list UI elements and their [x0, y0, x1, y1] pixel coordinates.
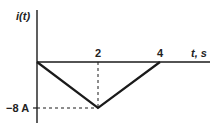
x-axis-label: t, s	[191, 48, 207, 59]
x-tick-label-2: 2	[95, 48, 101, 59]
y-axis-label: i(t)	[16, 11, 30, 22]
waveform-plot	[0, 0, 218, 130]
x-tick-label-4: 4	[157, 48, 163, 59]
y-tick-label-minus-8: −8 A	[6, 103, 29, 114]
current-waveform-diagram: i(t) 2 4 t, s −8 A	[0, 0, 218, 130]
